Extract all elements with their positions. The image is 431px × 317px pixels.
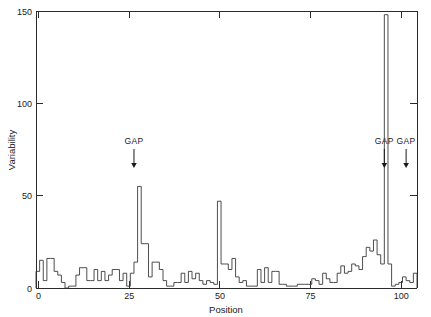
y-tick-label-100: 100 <box>17 99 32 109</box>
y-axis-title: Variability <box>6 130 17 171</box>
gap-label-3: GAP <box>397 136 416 146</box>
x-tick-label-0: 0 <box>36 291 41 301</box>
gap-label-2: GAP <box>375 136 394 146</box>
x-axis-title: Position <box>209 304 243 315</box>
y-tick-label-50: 50 <box>22 191 32 201</box>
x-tick-label-100: 100 <box>394 291 409 301</box>
y-tick-label-150: 150 <box>17 7 32 17</box>
x-tick-label-25: 25 <box>124 291 134 301</box>
x-tick-label-75: 75 <box>306 291 316 301</box>
x-tick-label-50: 50 <box>215 291 225 301</box>
variability-position-chart: 150 100 50 0 Variability 0 25 50 75 100 <box>0 0 431 317</box>
gap-label-1: GAP <box>124 136 143 146</box>
chart-figure: 150 100 50 0 Variability 0 25 50 75 100 <box>0 0 431 317</box>
chart-background <box>0 0 431 317</box>
y-tick-label-0: 0 <box>27 284 32 294</box>
